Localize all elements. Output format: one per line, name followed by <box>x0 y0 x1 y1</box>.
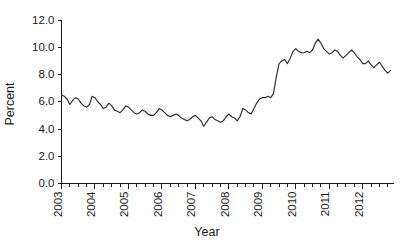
data-series-line <box>62 39 391 126</box>
y-tick-label: 2.0 <box>39 150 55 162</box>
x-axis-title: Year <box>194 225 219 239</box>
x-tick-label: 2007 <box>185 192 197 218</box>
x-tick-label: 2006 <box>152 192 164 218</box>
x-tick-label: 2011 <box>319 192 331 217</box>
y-axis-tick-labels: 0.02.04.06.08.010.012.0 <box>32 14 54 190</box>
x-tick-label: 2009 <box>252 192 264 218</box>
x-tick-label: 2003 <box>52 192 64 218</box>
y-tick-label: 10.0 <box>32 41 54 53</box>
x-tick-label: 2004 <box>85 191 97 217</box>
x-axis-tick-labels: 2003200420052006200720082009201020112012 <box>52 191 365 217</box>
x-tick-label: 2010 <box>286 192 298 218</box>
y-tick-label: 0.0 <box>39 177 55 189</box>
y-tick-label: 4.0 <box>39 123 55 135</box>
unemployment-rate-chart: 0.02.04.06.08.010.012.0 2003200420052006… <box>0 0 413 243</box>
x-tick-label: 2005 <box>118 192 130 218</box>
x-tick-label: 2008 <box>219 192 231 218</box>
y-tick-label: 12.0 <box>32 14 54 26</box>
y-axis-ticks <box>58 20 62 184</box>
y-tick-label: 8.0 <box>39 68 55 80</box>
x-axis-ticks <box>62 184 388 189</box>
x-tick-label: 2012 <box>353 192 365 218</box>
y-axis-title: Percent <box>3 82 17 126</box>
y-tick-label: 6.0 <box>39 95 55 107</box>
chart-canvas: 0.02.04.06.08.010.012.0 2003200420052006… <box>0 0 413 243</box>
